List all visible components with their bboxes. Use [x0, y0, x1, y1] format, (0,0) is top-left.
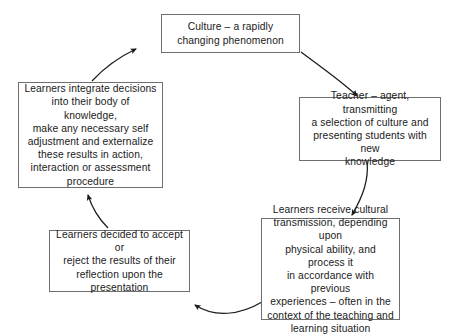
node-learners-decided-label: Learners decided to accept or reject the… — [55, 228, 184, 294]
node-learners-integrate-label: Learners integrate decisions into their … — [24, 82, 157, 188]
arrow-decide-to-integrate — [88, 195, 108, 228]
arrow-integrate-to-culture — [92, 49, 136, 81]
node-learners-receive[interactable]: Learners receive cultural transmission, … — [261, 218, 400, 320]
node-learners-receive-label: Learners receive cultural transmission, … — [267, 203, 394, 335]
node-learners-decided[interactable]: Learners decided to accept or reject the… — [49, 230, 190, 292]
node-culture[interactable]: Culture – a rapidly changing phenomenon — [161, 14, 300, 53]
node-teacher-label: Teacher – agent, transmitting a selectio… — [305, 89, 435, 168]
node-learners-integrate[interactable]: Learners integrate decisions into their … — [18, 82, 163, 188]
node-culture-label: Culture – a rapidly changing phenomenon — [167, 20, 294, 46]
arrow-receive-to-decide — [195, 302, 262, 313]
node-teacher[interactable]: Teacher – agent, transmitting a selectio… — [299, 97, 441, 161]
